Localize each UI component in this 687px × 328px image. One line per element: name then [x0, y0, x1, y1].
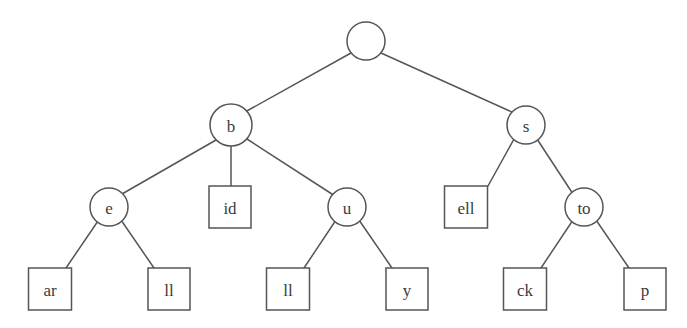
node-label-ll1: ll: [164, 281, 174, 300]
node-ar[interactable]: ar: [29, 268, 72, 310]
node-u[interactable]: u: [328, 188, 366, 226]
node-label-ell: ell: [458, 199, 475, 218]
trie-diagram-canvas: bseiduelltoarllllyckp: [0, 0, 687, 328]
edge-b-to-u: [247, 139, 335, 196]
node-label-ck: ck: [517, 281, 534, 300]
node-label-u: u: [343, 199, 352, 218]
nodes-layer: bseiduelltoarllllyckp: [29, 22, 667, 310]
node-s[interactable]: s: [507, 106, 545, 144]
edge-u-to-ll2: [304, 220, 336, 268]
node-root[interactable]: [347, 22, 385, 60]
node-label-y: y: [403, 281, 412, 300]
node-label-b: b: [227, 117, 236, 136]
edge-b-to-e: [122, 140, 216, 194]
edge-s-to-to: [537, 139, 573, 194]
node-ll2[interactable]: ll: [267, 268, 310, 310]
edge-to-to-ck: [541, 220, 573, 268]
node-label-e: e: [105, 199, 113, 218]
node-to[interactable]: to: [565, 188, 603, 226]
edge-to-to-p: [596, 220, 629, 268]
node-label-ll2: ll: [283, 281, 293, 300]
edge-u-to-y: [359, 220, 392, 268]
node-y[interactable]: y: [386, 268, 428, 310]
node-shape-circle-root[interactable]: [347, 22, 385, 60]
node-label-ar: ar: [43, 281, 57, 300]
node-ll1[interactable]: ll: [148, 268, 190, 310]
edge-root-to-b: [245, 53, 351, 112]
node-b[interactable]: b: [210, 104, 252, 146]
node-label-s: s: [523, 117, 530, 136]
node-ck[interactable]: ck: [504, 268, 547, 310]
node-label-to: to: [577, 199, 590, 218]
edge-e-to-ll1: [121, 220, 154, 268]
node-ell[interactable]: ell: [445, 186, 488, 228]
node-p[interactable]: p: [624, 268, 666, 310]
edges-layer: [66, 53, 629, 268]
edge-root-to-s: [381, 53, 514, 113]
node-e[interactable]: e: [90, 188, 128, 226]
node-id[interactable]: id: [209, 186, 251, 228]
edge-s-to-ell: [488, 139, 514, 186]
trie-diagram-svg: bseiduelltoarllllyckp: [0, 0, 687, 328]
node-label-p: p: [641, 281, 650, 300]
edge-e-to-ar: [66, 221, 98, 268]
node-label-id: id: [223, 199, 237, 218]
